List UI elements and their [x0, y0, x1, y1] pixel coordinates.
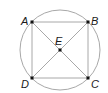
label-b: B — [91, 15, 98, 27]
label-d: D — [21, 78, 29, 90]
point-e — [59, 49, 62, 52]
point-c — [87, 77, 90, 80]
point-a — [31, 21, 34, 24]
label-a: A — [20, 15, 28, 27]
label-e: E — [55, 35, 63, 47]
point-d — [31, 77, 34, 80]
geometry-diagram: A B C D E — [0, 0, 108, 93]
label-c: C — [91, 78, 99, 90]
point-b — [87, 21, 90, 24]
